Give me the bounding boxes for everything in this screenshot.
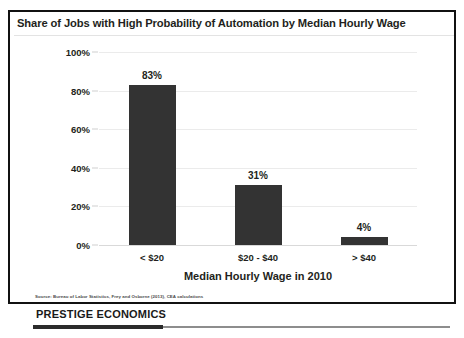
y-axis-tick [92,206,98,207]
bar-value-label: 31% [248,170,268,181]
y-axis-tick [92,129,98,130]
x-axis-category-label: > $40 [352,252,376,263]
slide-footer: PRESTIGE ECONOMICS [0,308,464,338]
y-axis-tick-label: 40% [71,162,90,173]
footer-rule-dark [33,325,163,329]
y-axis-tick [92,90,98,91]
x-axis-category-label: < $20 [140,252,164,263]
bar: 83%< $20 [129,85,176,245]
bar: 31%$20 - $40 [235,185,282,245]
slide: Share of Jobs with High Probability of A… [0,0,464,338]
y-axis-tick-label: 20% [71,201,90,212]
gridline [99,52,417,53]
y-axis-tick [92,52,98,53]
bar-value-label: 4% [357,222,371,233]
title-divider [14,35,454,36]
y-axis-tick [92,245,98,246]
bar-value-label: 83% [142,70,162,81]
y-axis-tick-label: 0% [76,240,90,251]
x-axis-category-label: $20 - $40 [238,252,278,263]
y-axis-tick-label: 80% [71,85,90,96]
gridline [99,245,417,246]
chart-title: Share of Jobs with High Probability of A… [10,12,454,34]
chart-frame: Share of Jobs with High Probability of A… [8,10,456,304]
bar: 4%> $40 [341,237,388,245]
x-axis-title: Median Hourly Wage in 2010 [99,270,417,282]
y-axis-tick-label: 60% [71,124,90,135]
y-axis-tick [92,167,98,168]
y-axis-tick-label: 100% [66,47,90,58]
footer-rule-light [163,326,450,328]
footer-brand: PRESTIGE ECONOMICS [36,308,166,320]
source-note: Source: Bureau of Labor Statistics, Frey… [35,294,203,299]
plot-area: 0%20%40%60%80%100%83%< $2031%$20 - $404%… [99,52,417,245]
